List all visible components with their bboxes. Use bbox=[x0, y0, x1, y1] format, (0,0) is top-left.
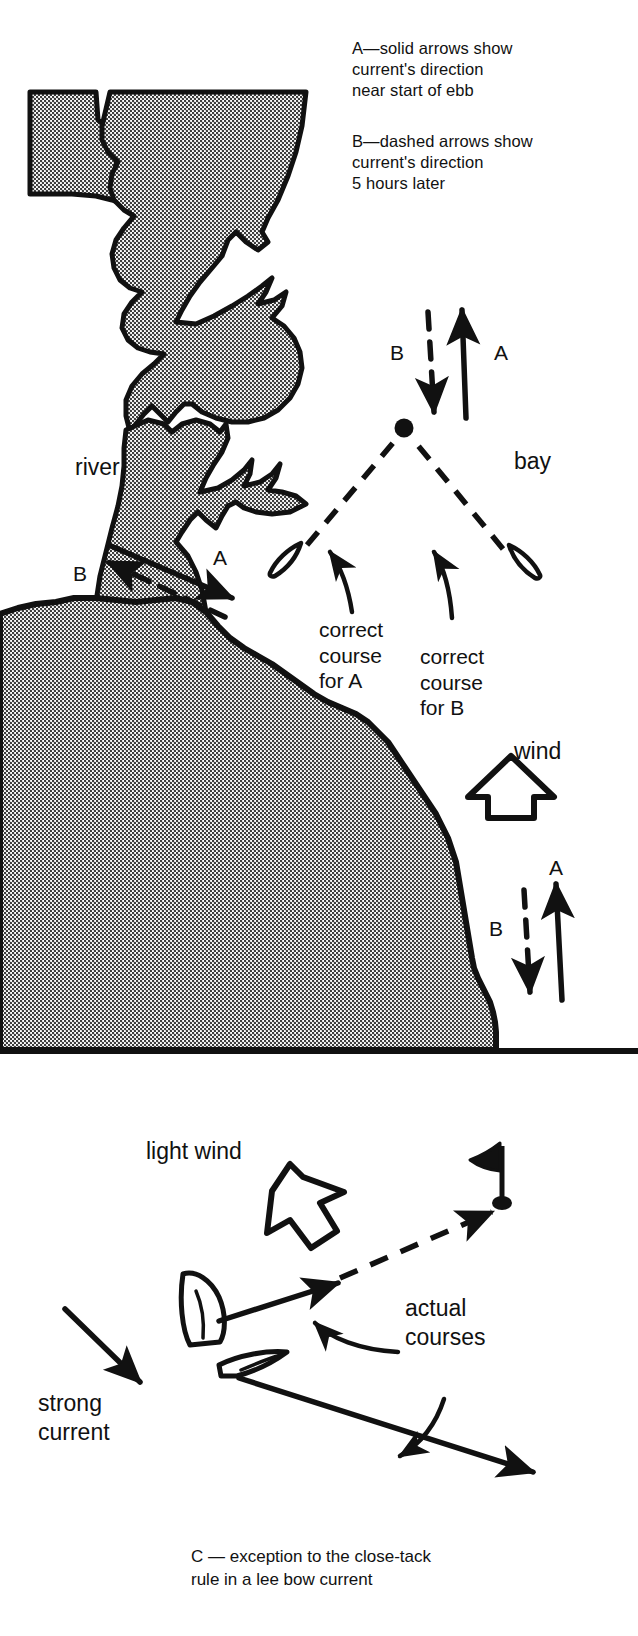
course-leg-lower bbox=[239, 1378, 533, 1472]
arrow-a-bay-label: A bbox=[494, 340, 508, 367]
race-mark-dot bbox=[395, 419, 414, 438]
actual-courses-label: actual courses bbox=[405, 1294, 486, 1353]
boat-b bbox=[509, 545, 540, 578]
correct-course-b-note: correct course for B bbox=[420, 644, 484, 721]
leader-course-b bbox=[434, 552, 452, 618]
legend-entry-b: B—dashed arrows show current's direction… bbox=[352, 131, 533, 194]
arrow-b-bay bbox=[428, 312, 434, 412]
bay-label: bay bbox=[514, 447, 551, 476]
arrow-a-river-label: A bbox=[213, 545, 227, 572]
light-wind-label: light wind bbox=[146, 1137, 242, 1166]
arrow-a-bay bbox=[462, 310, 466, 418]
course-line-a bbox=[307, 437, 398, 545]
arrow-a-lower bbox=[556, 884, 562, 1000]
strong-current-arrow bbox=[65, 1309, 140, 1382]
strong-current-label: strong current bbox=[38, 1389, 110, 1448]
arrow-b-lower bbox=[524, 890, 530, 992]
bay-current-arrows bbox=[428, 310, 466, 418]
leader-course-a bbox=[330, 552, 352, 612]
legend-entry-a: A—solid arrows show current's direction … bbox=[352, 38, 513, 101]
diagram-canvas: A—solid arrows show current's direction … bbox=[0, 0, 638, 1636]
light-wind-arrow bbox=[267, 1164, 344, 1248]
course-line-b bbox=[411, 437, 503, 549]
boat-a bbox=[270, 543, 301, 576]
correct-course-a-note: correct course for A bbox=[319, 617, 383, 694]
arrow-b-lower-label: B bbox=[489, 916, 503, 943]
bay-courses bbox=[270, 419, 540, 619]
course-leg-dashed-upper bbox=[340, 1212, 492, 1278]
arrow-a-lower-label: A bbox=[549, 855, 563, 882]
race-mark-flag bbox=[470, 1143, 512, 1210]
leader-actual-lower bbox=[400, 1399, 444, 1456]
course-leg-solid-upper bbox=[219, 1283, 338, 1321]
arrow-b-bay-label: B bbox=[390, 340, 404, 367]
arrow-b-river-label: B bbox=[73, 561, 87, 588]
wind-label: wind bbox=[514, 737, 561, 766]
leader-actual-upper bbox=[315, 1323, 398, 1352]
figure-caption: C — exception to the close-tack rule in … bbox=[191, 1546, 431, 1592]
river-label: river bbox=[75, 453, 120, 482]
